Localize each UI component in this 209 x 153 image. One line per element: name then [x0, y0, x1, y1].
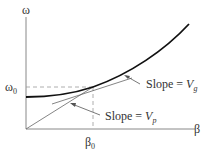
- slope-p-arrow: [72, 104, 100, 115]
- slope-p-arrowhead: [70, 103, 76, 107]
- beta0-label: β0: [85, 136, 95, 151]
- dispersion-diagram: ω β ω0 β0 Slope = Vg Slope = Vp: [0, 0, 209, 153]
- omega-axis-label: ω: [22, 4, 30, 16]
- group-velocity-tangent: [52, 78, 132, 104]
- slope-vg-label: Slope = Vg: [146, 78, 197, 93]
- beta-axis-label: β: [194, 123, 200, 135]
- slope-vp-label: Slope = Vp: [105, 110, 156, 125]
- slope-g-arrowhead: [124, 75, 130, 79]
- omega0-label: ω0: [5, 81, 17, 96]
